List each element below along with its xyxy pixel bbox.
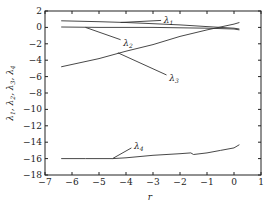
eigenvalue-line-chart: −7−6−5−4−3−2−10120−2−4−6−8−10−12−14−16−1… <box>0 0 269 202</box>
axis-tick-labels: −7−6−5−4−3−2−10120−2−4−6−8−10−12−14−16−1… <box>23 6 264 187</box>
x-axis-label: r <box>148 192 153 202</box>
plot-frame <box>45 11 261 175</box>
annotation-lambda-1: λ1 <box>163 15 174 26</box>
x-tick-label: −1 <box>200 177 213 187</box>
y-tick-label: −2 <box>29 39 42 49</box>
y-tick-label: −8 <box>29 88 43 98</box>
x-tick-label: −4 <box>119 177 133 187</box>
x-tick-label: 0 <box>231 177 237 187</box>
annotation-leader <box>86 27 121 39</box>
y-tick-label: −4 <box>29 55 43 65</box>
x-tick-label: −3 <box>146 177 160 187</box>
annotation-leader <box>121 20 162 22</box>
x-tick-label: 1 <box>258 177 264 187</box>
y-tick-label: −18 <box>23 170 42 180</box>
axis-ticks <box>45 11 261 175</box>
x-tick-label: −5 <box>92 177 106 187</box>
y-tick-label: −16 <box>23 154 42 164</box>
series-line-lambda-4 <box>61 145 239 159</box>
annotation-leader <box>118 53 167 75</box>
y-tick-label: 0 <box>36 22 42 32</box>
curve-annotations: λ1λ2λ3λ4 <box>86 15 179 159</box>
y-tick-label: −14 <box>23 137 42 147</box>
data-series <box>61 21 239 159</box>
annotation-lambda-3: λ3 <box>168 73 179 84</box>
y-axis-label: λ1, λ2, λ3, λ4 <box>5 65 16 122</box>
x-tick-label: −2 <box>173 177 186 187</box>
x-tick-label: −6 <box>65 177 79 187</box>
y-tick-label: −12 <box>23 121 42 131</box>
annotation-lambda-4: λ4 <box>133 141 144 152</box>
annotation-lambda-2: λ2 <box>122 38 133 49</box>
y-tick-label: −6 <box>29 72 43 82</box>
annotation-leader <box>113 148 132 159</box>
y-tick-label: 2 <box>36 6 42 16</box>
series-line-lambda-3 <box>61 23 239 67</box>
y-tick-label: −10 <box>23 104 42 114</box>
